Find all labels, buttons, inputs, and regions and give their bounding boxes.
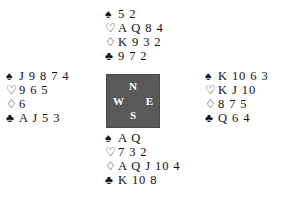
hand-south-diamonds-row: ♢ A Q J 10 4 [105,159,180,173]
compass-label-west: W [113,96,124,107]
hand-west-spades: J 9 8 7 4 [19,69,69,83]
hand-east-clubs-row: ♣ Q 6 4 [205,111,269,125]
hand-west-diamonds: 6 [19,97,26,111]
hand-east: ♠ K 10 6 3 ♡ K J 10 ♢ 8 7 5 ♣ Q 6 4 [205,69,269,125]
hand-east-hearts-row: ♡ K J 10 [205,83,269,97]
spade-suit-icon: ♠ [105,7,118,21]
hand-north-diamonds-row: ♢ K 9 3 2 [105,35,164,49]
diamond-suit-icon: ♢ [105,35,118,49]
heart-suit-icon: ♡ [205,83,218,97]
hand-east-spades: K 10 6 3 [218,69,269,83]
hand-north-diamonds: K 9 3 2 [118,35,161,49]
hand-south-clubs: K 10 8 [118,173,157,187]
club-suit-icon: ♣ [105,173,118,187]
hand-west-diamonds-row: ♢ 6 [6,97,69,111]
compass-label-north: N [107,81,159,92]
spade-suit-icon: ♠ [6,69,19,83]
hand-west-clubs-row: ♣ A J 5 3 [6,111,69,125]
hand-north-hearts-row: ♡ A Q 8 4 [105,21,164,35]
hand-east-diamonds-row: ♢ 8 7 5 [205,97,269,111]
compass-box: N W E S [106,74,160,128]
hand-south-clubs-row: ♣ K 10 8 [105,173,180,187]
hand-south-hearts-row: ♡ 7 3 2 [105,145,180,159]
club-suit-icon: ♣ [205,111,218,125]
hand-west-clubs: A J 5 3 [19,111,60,125]
hand-south-spades: A Q [118,131,141,145]
hand-south-hearts: 7 3 2 [118,145,148,159]
hand-east-clubs: Q 6 4 [218,111,250,125]
hand-north: ♠ 5 2 ♡ A Q 8 4 ♢ K 9 3 2 ♣ 9 7 2 [105,7,164,63]
spade-suit-icon: ♠ [105,131,118,145]
club-suit-icon: ♣ [105,49,118,63]
hand-north-spades: 5 2 [118,7,136,21]
hand-south: ♠ A Q ♡ 7 3 2 ♢ A Q J 10 4 ♣ K 10 8 [105,131,180,187]
hand-west-spades-row: ♠ J 9 8 7 4 [6,69,69,83]
hand-west-hearts-row: ♡ 9 6 5 [6,83,69,97]
compass-label-east: E [146,96,153,107]
hand-south-spades-row: ♠ A Q [105,131,180,145]
hand-west: ♠ J 9 8 7 4 ♡ 9 6 5 ♢ 6 ♣ A J 5 3 [6,69,69,125]
diamond-suit-icon: ♢ [6,97,19,111]
hand-north-clubs-row: ♣ 9 7 2 [105,49,164,63]
diamond-suit-icon: ♢ [105,159,118,173]
hand-south-diamonds: A Q J 10 4 [118,159,180,173]
club-suit-icon: ♣ [6,111,19,125]
spade-suit-icon: ♠ [205,69,218,83]
heart-suit-icon: ♡ [6,83,19,97]
heart-suit-icon: ♡ [105,145,118,159]
compass-label-south: S [107,110,159,121]
diamond-suit-icon: ♢ [205,97,218,111]
hand-north-hearts: A Q 8 4 [118,21,164,35]
hand-north-clubs: 9 7 2 [118,49,148,63]
hand-east-hearts: K J 10 [218,83,256,97]
bridge-deal-diagram: ♠ 5 2 ♡ A Q 8 4 ♢ K 9 3 2 ♣ 9 7 2 ♠ J 9 … [0,0,291,202]
heart-suit-icon: ♡ [105,21,118,35]
hand-west-hearts: 9 6 5 [19,83,49,97]
hand-north-spades-row: ♠ 5 2 [105,7,164,21]
hand-east-spades-row: ♠ K 10 6 3 [205,69,269,83]
hand-east-diamonds: 8 7 5 [218,97,248,111]
